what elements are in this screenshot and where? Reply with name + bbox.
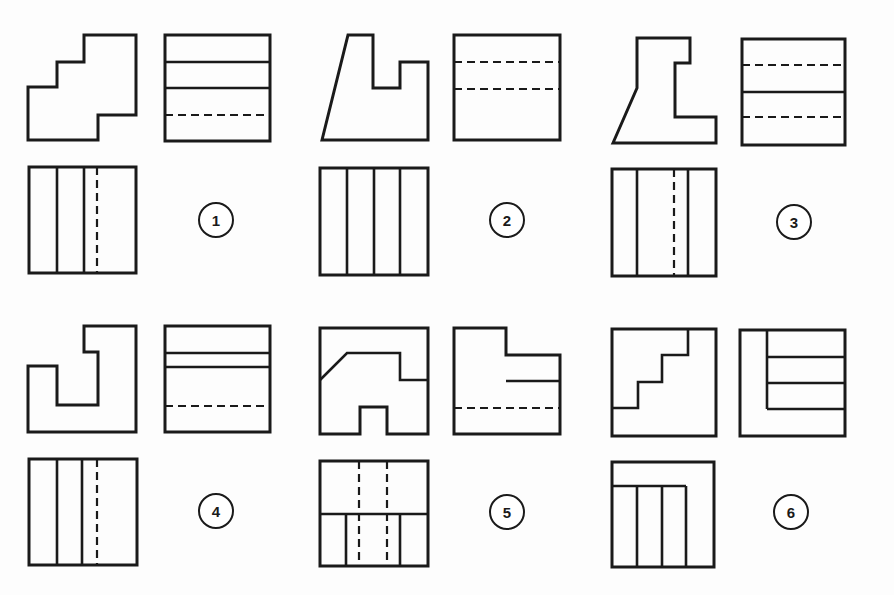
- front-outline: [28, 326, 136, 432]
- front-view: [28, 326, 136, 432]
- problem-number: 4: [212, 503, 221, 520]
- orthographic-drawings: 123456: [0, 0, 894, 595]
- problem-4: 4: [28, 326, 270, 565]
- side-view: [454, 35, 560, 140]
- side-outline: [165, 326, 270, 432]
- top-outline: [612, 169, 716, 276]
- front-outline: [28, 35, 136, 140]
- side-view: [740, 330, 845, 436]
- side-view: [165, 35, 270, 141]
- front-outline: [613, 38, 716, 143]
- top-view: [29, 167, 136, 273]
- side-view: [454, 328, 560, 434]
- problem-number-badge: 4: [199, 494, 233, 528]
- top-view: [320, 168, 428, 275]
- side-outline: [454, 35, 560, 140]
- problem-number: 2: [503, 212, 511, 229]
- top-view: [29, 459, 137, 565]
- top-view: [612, 169, 716, 276]
- problem-3: 3: [612, 38, 845, 276]
- front-stair-edge: [612, 329, 688, 408]
- problem-5: 5: [320, 328, 560, 566]
- problem-number: 6: [787, 504, 795, 521]
- problem-number-badge: 6: [774, 495, 808, 529]
- front-view: [28, 35, 136, 140]
- front-outline: [322, 35, 428, 140]
- front-view: [612, 329, 716, 436]
- top-view: [320, 461, 428, 566]
- problem-6: 6: [612, 329, 845, 567]
- front-view: [320, 328, 428, 434]
- problem-number: 1: [212, 212, 220, 229]
- problem-number-badge: 3: [777, 205, 811, 239]
- top-outline: [29, 167, 136, 273]
- problem-number-badge: 1: [199, 203, 233, 237]
- top-view: [612, 462, 714, 567]
- problem-2: 2: [320, 35, 560, 275]
- side-view: [742, 39, 845, 145]
- front-view: [322, 35, 428, 140]
- front-view: [613, 38, 716, 143]
- front-outline: [612, 329, 716, 436]
- problem-number: 5: [503, 504, 511, 521]
- side-view: [165, 326, 270, 432]
- problem-number-badge: 5: [490, 495, 524, 529]
- problem-1: 1: [28, 35, 270, 273]
- problem-number-badge: 2: [490, 203, 524, 237]
- front-edge: [320, 353, 428, 380]
- drawing-sheet: 123456: [0, 0, 894, 595]
- problem-number: 3: [790, 214, 798, 231]
